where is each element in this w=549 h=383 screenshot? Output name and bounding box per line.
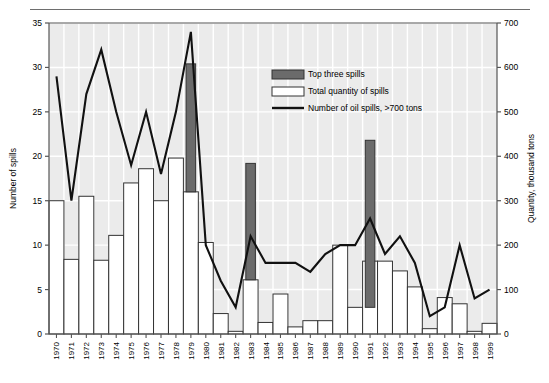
y-tick-label-left: 5 [37, 285, 42, 295]
y-tick-label-right: 0 [504, 329, 509, 339]
x-tick-label: 1997 [456, 341, 465, 359]
bar-total-quantity [213, 314, 228, 334]
x-tick-label: 1996 [441, 341, 450, 359]
x-tick-label: 1990 [351, 341, 360, 359]
bar-total-quantity [154, 201, 169, 334]
x-tick-label: 1973 [97, 341, 106, 359]
x-tick-label: 1975 [127, 341, 136, 359]
y-tick-label-left: 30 [33, 62, 43, 72]
y-tick-label-left: 35 [33, 18, 43, 28]
bar-total-quantity [124, 183, 139, 334]
bar-total-quantity [273, 294, 288, 334]
bar-total-quantity [333, 245, 348, 334]
x-tick-label: 1974 [112, 341, 121, 359]
x-tick-label: 1987 [306, 341, 315, 359]
x-tick-label: 1989 [336, 341, 345, 359]
bar-total-quantity [139, 169, 154, 334]
bar-top-three-spills [246, 163, 256, 279]
bar-total-quantity [407, 287, 422, 334]
y-tick-label-left: 15 [33, 196, 43, 206]
y-tick-label-right: 500 [504, 107, 518, 117]
bar-total-quantity [243, 280, 258, 334]
x-tick-label: 1993 [396, 341, 405, 359]
x-tick-label: 1985 [276, 341, 285, 359]
x-tick-label: 1970 [52, 341, 61, 359]
y-tick-label-left: 0 [37, 329, 42, 339]
y-tick-label-left: 10 [33, 240, 43, 250]
x-tick-label: 1979 [187, 341, 196, 359]
bar-total-quantity [452, 304, 467, 334]
bar-total-quantity [422, 329, 437, 334]
y-tick-label-right: 400 [504, 151, 518, 161]
y-tick-label-right: 600 [504, 62, 518, 72]
y-axis-title-right: Quantity, thousand tons [526, 134, 536, 223]
y-tick-label-right: 700 [504, 18, 518, 28]
x-tick-label: 1994 [411, 341, 420, 359]
bar-total-quantity [392, 271, 407, 334]
header-rule [30, 9, 530, 10]
bar-total-quantity [288, 327, 303, 334]
bar-total-quantity [109, 235, 124, 334]
bar-total-quantity [183, 192, 198, 334]
y-tick-label-left: 25 [33, 107, 43, 117]
legend-swatch [272, 70, 304, 79]
x-tick-label: 1981 [217, 341, 226, 359]
x-tick-label: 1999 [486, 341, 495, 359]
x-tick-label: 1976 [142, 341, 151, 359]
chart-canvas: 0510152025303501002003004005006007001970… [0, 0, 549, 383]
bar-total-quantity [64, 259, 79, 334]
x-tick-label: 1998 [471, 341, 480, 359]
bar-total-quantity [348, 307, 363, 334]
legend-swatch [272, 87, 304, 96]
y-tick-label-right: 300 [504, 196, 518, 206]
legend-label: Number of oil spills, >700 tons [308, 103, 422, 113]
x-tick-label: 1984 [262, 341, 271, 359]
x-tick-label: 1992 [381, 341, 390, 359]
bar-total-quantity [94, 260, 109, 334]
legend-label: Total quantity of spills [308, 86, 389, 96]
x-tick-label: 1983 [247, 341, 256, 359]
x-tick-label: 1971 [67, 341, 76, 359]
x-tick-label: 1986 [291, 341, 300, 359]
y-tick-label-right: 200 [504, 240, 518, 250]
y-tick-label-left: 20 [33, 151, 43, 161]
x-tick-label: 1978 [172, 341, 181, 359]
chart-figure: 0510152025303501002003004005006007001970… [0, 0, 549, 383]
x-tick-label: 1988 [321, 341, 330, 359]
x-tick-label: 1991 [366, 341, 375, 359]
bar-total-quantity [49, 201, 64, 334]
bar-total-quantity [168, 158, 183, 334]
legend-label: Top three spills [308, 69, 365, 79]
bar-total-quantity [378, 261, 393, 334]
y-axis-title-left: Number of spills [8, 148, 18, 209]
bar-total-quantity [79, 196, 94, 334]
y-tick-label-right: 100 [504, 285, 518, 295]
x-tick-label: 1982 [232, 341, 241, 359]
bar-total-quantity [258, 322, 273, 334]
bar-total-quantity [303, 321, 318, 334]
bar-total-quantity [482, 323, 497, 334]
x-tick-label: 1977 [157, 341, 166, 359]
x-tick-label: 1980 [202, 341, 211, 359]
x-tick-label: 1995 [426, 341, 435, 359]
bar-total-quantity [318, 321, 333, 334]
x-tick-label: 1972 [82, 341, 91, 359]
